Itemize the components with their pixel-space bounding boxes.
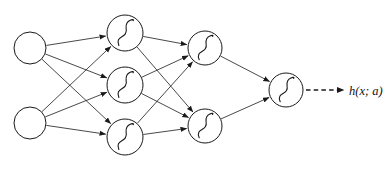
network-canvas: h(x; a) — [0, 0, 384, 171]
node-circle — [188, 31, 222, 65]
node-circle — [188, 109, 222, 143]
node-h3[interactable] — [107, 119, 143, 155]
node-o1[interactable] — [269, 73, 303, 107]
edge-i2-h2 — [45, 92, 107, 117]
edges-group — [42, 36, 270, 134]
node-circle — [269, 73, 303, 107]
node-circle — [14, 32, 46, 64]
edge-i2-h1 — [42, 46, 111, 111]
neural-network-diagram: h(x; a) — [0, 0, 384, 171]
edge-i2-h3 — [46, 125, 105, 134]
edge-i1-h2 — [45, 54, 106, 78]
node-i2[interactable] — [14, 107, 46, 139]
node-h2[interactable] — [107, 67, 143, 103]
edge-i1-h1 — [46, 36, 105, 45]
nodes-group — [14, 15, 303, 155]
node-h1[interactable] — [107, 15, 143, 51]
edge-h1-g2 — [137, 47, 193, 112]
node-circle — [107, 15, 143, 51]
output-label: h(x; a) — [349, 84, 383, 98]
node-g1[interactable] — [188, 31, 222, 65]
edge-g1-o1 — [221, 56, 270, 81]
node-circle — [14, 107, 46, 139]
node-g2[interactable] — [188, 109, 222, 143]
node-circle — [107, 119, 143, 155]
edge-h3-g1 — [137, 62, 192, 123]
node-circle — [107, 67, 143, 103]
edge-g2-o1 — [221, 98, 269, 119]
edge-h2-g2 — [141, 93, 188, 117]
edge-h3-g2 — [143, 129, 186, 135]
edge-h1-g1 — [143, 36, 187, 44]
node-i1[interactable] — [14, 32, 46, 64]
